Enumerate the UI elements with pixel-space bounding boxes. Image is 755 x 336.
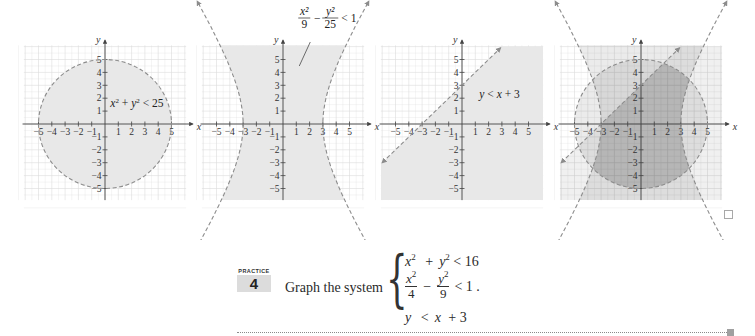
eq1-op: + <box>425 254 433 269</box>
x-tick-label: 2 <box>129 127 134 137</box>
svg-text:x²: x² <box>299 5 309 17</box>
x-axis-label: x <box>732 121 738 132</box>
eq3-var-x: x <box>435 310 441 325</box>
y-tick-label: 1 <box>454 106 459 116</box>
x-tick-label: 3 <box>500 127 505 137</box>
y-tick-label: −4 <box>269 171 279 181</box>
y-tick-label: −2 <box>269 145 279 155</box>
x-tick-label: −5 <box>390 127 400 137</box>
x-tick-label: 2 <box>486 127 491 137</box>
eq1-exp: 2 <box>411 252 416 262</box>
y-tick-label: 2 <box>454 93 459 103</box>
svg-text:< 1: < 1 <box>341 12 356 24</box>
x-axis-label: x <box>374 121 380 132</box>
y-tick-label: 4 <box>633 68 638 78</box>
x-tick-label: 5 <box>169 127 174 137</box>
graph-intersection: xy−5−4−3−2−11234554321−1−2−3−4−5 <box>551 1 737 240</box>
y-tick-label: −3 <box>448 158 458 168</box>
eq3-rel: < <box>421 310 429 325</box>
practice-badge: PRACTICE 4 <box>237 268 271 292</box>
svg-text:−: − <box>314 12 321 24</box>
y-tick-label: −2 <box>448 145 458 155</box>
x-axis-label: x <box>553 121 559 132</box>
x-tick-label: −2 <box>251 127 261 137</box>
x-tick-label: −4 <box>47 127 57 137</box>
y-tick-label: −5 <box>448 184 458 194</box>
x-tick-label: 2 <box>307 127 312 137</box>
eq2-den1: 4 <box>407 287 416 301</box>
x-tick-label: −4 <box>225 127 235 137</box>
x-tick-label: 5 <box>526 127 531 137</box>
system-equation-3: y <x + 3 <box>405 310 467 326</box>
y-tick-label: 5 <box>454 55 459 65</box>
eq3-var-y: y <box>405 310 411 325</box>
figure-end-marker <box>724 210 733 219</box>
y-tick-label: −5 <box>269 184 279 194</box>
eq2-fraction-2: y2 9 <box>437 272 449 301</box>
x-tick-label: 1 <box>473 127 478 137</box>
graph-circle: xy−5−4−3−2−11234554321−1−2−3−4−5x2 + y2 … <box>19 34 202 208</box>
x-tick-label: −3 <box>417 127 427 137</box>
y-tick-label: 2 <box>97 93 102 103</box>
x-tick-label: 5 <box>705 127 710 137</box>
x-tick-label: −4 <box>583 127 593 137</box>
eq2-den2: 9 <box>439 287 448 301</box>
y-axis-label: y <box>273 34 279 45</box>
y-tick-label: 1 <box>275 106 280 116</box>
x-tick-label: −2 <box>73 127 83 137</box>
y-tick-label: −4 <box>627 171 637 181</box>
y-tick-label: −2 <box>91 145 101 155</box>
y-axis-label: y <box>452 34 458 45</box>
y-tick-label: −1 <box>91 132 101 142</box>
y-tick-label: 1 <box>633 106 638 116</box>
section-divider-end <box>727 329 734 336</box>
x-tick-label: 5 <box>347 127 352 137</box>
eq3-rest: + 3 <box>448 310 466 325</box>
x-tick-label: −3 <box>60 127 70 137</box>
svg-text:y²: y² <box>325 5 335 18</box>
graph-hyperbola: xy−5−4−3−2−11234554321−1−2−3−4−5x²9−y²25… <box>193 1 379 240</box>
eq2-num1-exp: 2 <box>412 269 417 279</box>
practice-label: PRACTICE <box>237 268 271 274</box>
x-tick-label: 2 <box>665 127 670 137</box>
practice-number: 4 <box>237 275 271 292</box>
x-tick-label: −5 <box>211 127 221 137</box>
x-tick-label: 4 <box>692 127 697 137</box>
y-tick-label: 4 <box>454 68 459 78</box>
y-tick-label: −3 <box>269 158 279 168</box>
x-tick-label: 3 <box>143 127 148 137</box>
y-tick-label: 4 <box>275 68 280 78</box>
y-tick-label: −1 <box>627 132 637 142</box>
y-tick-label: −1 <box>448 132 458 142</box>
inequality-label: y < x + 3 <box>478 88 520 101</box>
svg-text:25: 25 <box>325 18 337 30</box>
eq2-num2-exp: 2 <box>444 269 449 279</box>
section-divider <box>237 332 727 333</box>
system-equation-2: x2 4 − y2 9 < 1 . <box>405 272 480 301</box>
eq1-rel: < 16 <box>453 254 478 269</box>
eq2-op: − <box>423 279 431 295</box>
x-tick-label: −2 <box>609 127 619 137</box>
practice-prompt: Graph the system <box>285 280 383 296</box>
y-tick-label: 3 <box>275 81 280 91</box>
eq2-fraction-1: x2 4 <box>405 272 417 301</box>
y-tick-label: −3 <box>91 158 101 168</box>
system-equation-1: x2 +y2 < 16 <box>405 254 479 270</box>
y-tick-label: 5 <box>275 55 280 65</box>
eq1-exp-y: 2 <box>445 252 450 262</box>
y-tick-label: −4 <box>91 171 101 181</box>
x-tick-label: 1 <box>116 127 121 137</box>
x-tick-label: −4 <box>404 127 414 137</box>
x-tick-label: 1 <box>652 127 657 137</box>
eq2-rel: < 1 . <box>454 279 479 295</box>
y-tick-label: 2 <box>633 93 638 103</box>
y-axis-label: y <box>95 34 101 45</box>
y-tick-label: −1 <box>269 132 279 142</box>
y-tick-label: −4 <box>448 171 458 181</box>
x-tick-label: 1 <box>294 127 299 137</box>
y-tick-label: 2 <box>275 93 280 103</box>
y-tick-label: −3 <box>627 158 637 168</box>
svg-text:9: 9 <box>301 18 307 30</box>
y-tick-label: 1 <box>97 106 102 116</box>
graph-line: xy−5−4−3−2−11234554321−1−2−3−4−5y < x + … <box>376 34 559 208</box>
